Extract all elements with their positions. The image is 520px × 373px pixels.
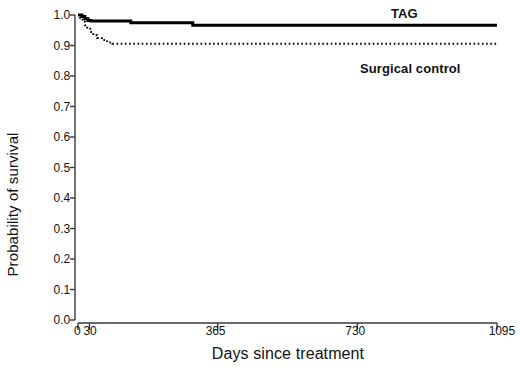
survival-chart-figure: Probability of survival 1.0 0.9 0.8 0.7 …	[0, 0, 520, 373]
series-line-surgical-control	[78, 15, 497, 44]
x-tick-label: 30	[83, 325, 96, 337]
y-tick-label: 0.7	[36, 101, 70, 113]
x-tick-label: 0	[74, 325, 81, 337]
plot-area	[0, 0, 520, 373]
y-tick-label: 0.8	[36, 70, 70, 82]
x-tick-label: 1095	[489, 325, 515, 337]
y-tick-label: 0.4	[36, 192, 70, 204]
series-label-surgical-control: Surgical control	[360, 61, 461, 76]
x-tick-label: 365	[206, 325, 226, 337]
y-tick-label: 0.1	[36, 284, 70, 296]
series-line-tag	[78, 15, 497, 25]
y-tick-label: 0.2	[36, 253, 70, 265]
x-tick-marks	[78, 323, 497, 330]
y-tick-label: 0.0	[36, 314, 70, 326]
y-tick-label: 0.9	[36, 40, 70, 52]
y-tick-label: 0.3	[36, 223, 70, 235]
y-tick-label: 0.5	[36, 162, 70, 174]
x-tick-label: 730	[345, 325, 365, 337]
y-tick-label: 1.0	[36, 9, 70, 21]
series-label-tag: TAG	[391, 6, 418, 21]
x-axis-title: Days since treatment	[78, 345, 498, 363]
y-tick-label: 0.6	[36, 131, 70, 143]
y-tick-label-group: 1.0 0.9 0.8 0.7 0.6 0.5 0.4 0.3 0.2 0.1 …	[30, 0, 70, 340]
y-tick-marks	[70, 15, 75, 320]
